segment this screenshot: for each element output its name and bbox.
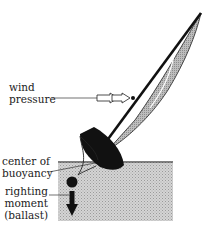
center-of-buoyancy-label: center of buoyancy: [2, 155, 48, 179]
wind-pressure-point: [131, 96, 135, 100]
ballast: [67, 177, 78, 188]
buoyancy-line1: center of: [2, 155, 48, 167]
water-region: [58, 161, 173, 221]
mast: [100, 13, 201, 150]
righting-line3: (ballast): [2, 209, 48, 221]
wind-pressure-line2: pressure: [9, 93, 56, 105]
wind-pressure-line1: wind: [9, 81, 56, 93]
wind-arrow-outline-2: [112, 93, 130, 103]
righting-line1: righting: [2, 185, 48, 197]
buoyancy-line2: buoyancy: [2, 167, 48, 179]
righting-arrow-shaft: [70, 191, 75, 205]
righting-moment-label: righting moment (ballast): [2, 185, 48, 221]
wind-pressure-label: wind pressure: [9, 81, 56, 105]
righting-line2: moment: [2, 197, 48, 209]
